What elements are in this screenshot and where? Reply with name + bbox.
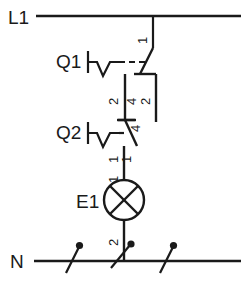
- terminal-q1-top: 1: [135, 37, 150, 44]
- pin-marker-right: [160, 242, 177, 273]
- q1-manual-actuator-icon: [88, 62, 119, 76]
- pin-marker-left: [66, 242, 83, 273]
- terminal-link-left-upper: 4: [124, 98, 139, 105]
- q2-manual-actuator-icon: [88, 133, 119, 147]
- terminal-link-left-lower: 2: [106, 98, 121, 105]
- device-label-q1: Q1: [56, 51, 81, 72]
- rail-label-l1: L1: [8, 7, 29, 28]
- terminal-q2-right: 1: [119, 156, 134, 163]
- terminal-lamp-bottom: 2: [106, 239, 121, 246]
- rail-label-n: N: [10, 251, 24, 272]
- device-label-e1: E1: [76, 191, 99, 212]
- q2-contact-blade: [125, 120, 137, 146]
- circuit-diagram: L1 Q1 1 4 2 2 4 Q2 1 1 1 E1 2 N: [0, 0, 249, 286]
- device-label-q2: Q2: [56, 122, 81, 143]
- terminal-link-right-upper: 2: [138, 98, 153, 105]
- schematic-canvas: L1 Q1 1 4 2 2 4 Q2 1 1 1 E1 2 N: [0, 0, 249, 286]
